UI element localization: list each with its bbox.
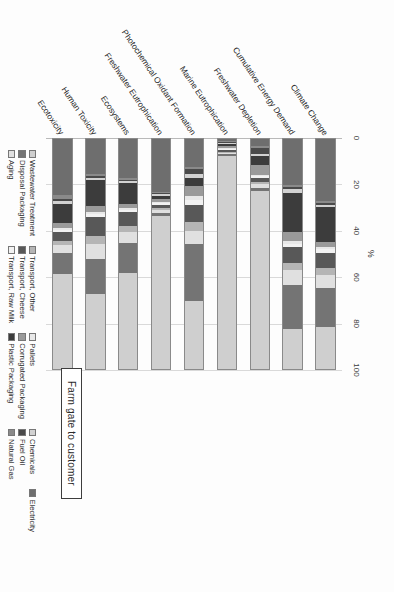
bar-row <box>217 138 237 370</box>
legend-label: Corrugated Packaging <box>18 343 27 419</box>
bar-segment <box>53 139 71 195</box>
bar-row <box>118 138 138 370</box>
bar-segment <box>283 285 301 329</box>
bar-row <box>151 138 171 370</box>
bar-segment <box>53 253 71 274</box>
legend-item: Disposal Packaging <box>17 150 28 236</box>
bar-segment <box>283 247 301 263</box>
legend-label: Fuel Oil <box>18 439 27 465</box>
legend-swatch-icon <box>18 333 26 341</box>
bar-segment <box>119 139 137 178</box>
legend-swatch-icon <box>8 333 16 341</box>
legend-label: Disposal Packaging <box>18 160 27 227</box>
bar-segment <box>316 275 334 288</box>
legend-item: Fuel Oil <box>17 429 28 480</box>
category-label: Freshwater Eutrophication <box>101 50 167 138</box>
chart-legend: Wastewater TreatmentDisposal PackagingAg… <box>4 150 38 580</box>
bar-segment <box>185 139 203 167</box>
legend-item: Chemicals <box>27 429 38 480</box>
bar-segment <box>53 232 71 241</box>
legend-label: Natural Gas <box>7 439 16 480</box>
legend-swatch-icon <box>8 150 16 158</box>
bar-row <box>52 138 72 370</box>
bar-segment <box>316 268 334 275</box>
legend-swatch-icon <box>29 246 37 254</box>
bar-segment <box>86 217 104 237</box>
bar-segment <box>185 231 203 244</box>
bar-segment <box>152 139 170 192</box>
x-tick-label: 40 <box>352 226 361 235</box>
rotated-page-wrapper: % 020406080100 Climate ChangeCumulative … <box>0 0 394 592</box>
x-tick-label: 100 <box>352 363 361 376</box>
legend-label: Transport, Cheese <box>18 256 27 319</box>
category-axis-labels: Climate ChangeCumulative Energy DemandFr… <box>46 0 342 138</box>
legend-swatch-icon <box>29 150 37 158</box>
x-tick-label: 60 <box>352 273 361 282</box>
gridline <box>46 370 342 371</box>
bar-segment <box>283 270 301 285</box>
legend-swatch-icon <box>29 429 37 437</box>
bar-segment <box>185 222 203 231</box>
x-tick-label: 0 <box>352 136 361 140</box>
legend-swatch-icon <box>29 489 37 497</box>
bar-segment <box>316 139 334 201</box>
legend-item: Transport, Cheese <box>17 246 28 323</box>
legend-label: Plastic Packaging <box>7 343 16 403</box>
bar-segment <box>53 245 71 253</box>
legend-item: Aging <box>6 150 17 236</box>
legend-swatch-icon <box>18 246 26 254</box>
bar-segment <box>251 191 269 369</box>
category-label: Ecotoxicity <box>34 97 68 138</box>
bar-segment <box>251 156 269 165</box>
category-label: Ecosystems <box>97 93 134 138</box>
scope-callout-box: Farm gate to customer <box>61 368 82 499</box>
legend-label: Wastewater Treatment <box>28 160 37 236</box>
legend-item: Corrugated Packaging <box>17 333 28 419</box>
legend-item: Natural Gas <box>6 429 17 480</box>
legend-label: Pallets <box>28 343 37 366</box>
legend-swatch-icon <box>18 429 26 437</box>
bar-segment <box>185 205 203 221</box>
bar-row <box>315 138 335 370</box>
legend-swatch-icon <box>29 333 37 341</box>
bar-segment <box>251 165 269 174</box>
legend-label: Aging <box>7 160 16 179</box>
bar-segment <box>119 273 137 369</box>
bar-row <box>184 138 204 370</box>
x-tick-label: 80 <box>352 319 361 328</box>
legend-item: Plastic Packaging <box>6 333 17 419</box>
bar-segment <box>283 232 301 241</box>
bar-row <box>282 138 302 370</box>
bar-segment <box>283 329 301 369</box>
x-axis-tick-labels: 020406080100 <box>347 138 361 370</box>
legend-item: Pallets <box>27 333 38 419</box>
bar-segment <box>316 327 334 369</box>
bar-segment <box>283 139 301 185</box>
bar-row <box>250 138 270 370</box>
bar-segment <box>119 243 137 273</box>
bar-segment <box>316 253 334 268</box>
chart-canvas: % 020406080100 Climate ChangeCumulative … <box>0 0 394 592</box>
bar-rows <box>46 138 342 370</box>
plot-area <box>46 138 342 370</box>
legend-label: Electricity <box>28 499 37 532</box>
bar-segment <box>185 186 203 196</box>
bar-segment <box>316 207 334 242</box>
bar-segment <box>86 180 104 206</box>
bar-segment <box>251 139 269 146</box>
bar-segment <box>119 232 137 244</box>
legend-label: Chemicals <box>28 439 37 474</box>
bar-segment <box>152 216 170 369</box>
legend-item: Transport, Raw Milk <box>6 246 17 323</box>
x-axis-title: % <box>366 138 376 370</box>
bar-segment <box>86 236 104 244</box>
legend-item: Electricity <box>27 489 38 532</box>
bar-row <box>85 138 105 370</box>
bar-segment <box>86 244 104 259</box>
legend-label: Transport, Raw Milk <box>7 256 16 323</box>
legend-label: Transport, Other <box>28 256 37 311</box>
bar-segment <box>86 294 104 369</box>
legend-item: Transport, Other <box>27 246 38 323</box>
bar-segment <box>185 178 203 186</box>
bar-segment <box>283 263 301 270</box>
